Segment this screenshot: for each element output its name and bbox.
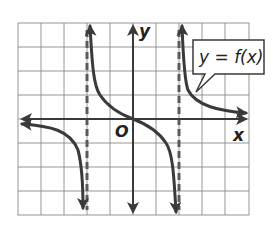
x-axis-label: x [232,125,245,145]
curve-branch-left [22,124,83,208]
y-axis-label: y [139,21,151,41]
function-callout: y = f(x) [193,40,264,92]
function-graph: y x O y = f(x) [0,0,273,227]
function-label-eq: = [209,47,234,67]
function-label: y = f(x) [198,47,263,67]
function-label-rhs: f(x) [234,47,263,67]
origin-label: O [115,122,129,141]
